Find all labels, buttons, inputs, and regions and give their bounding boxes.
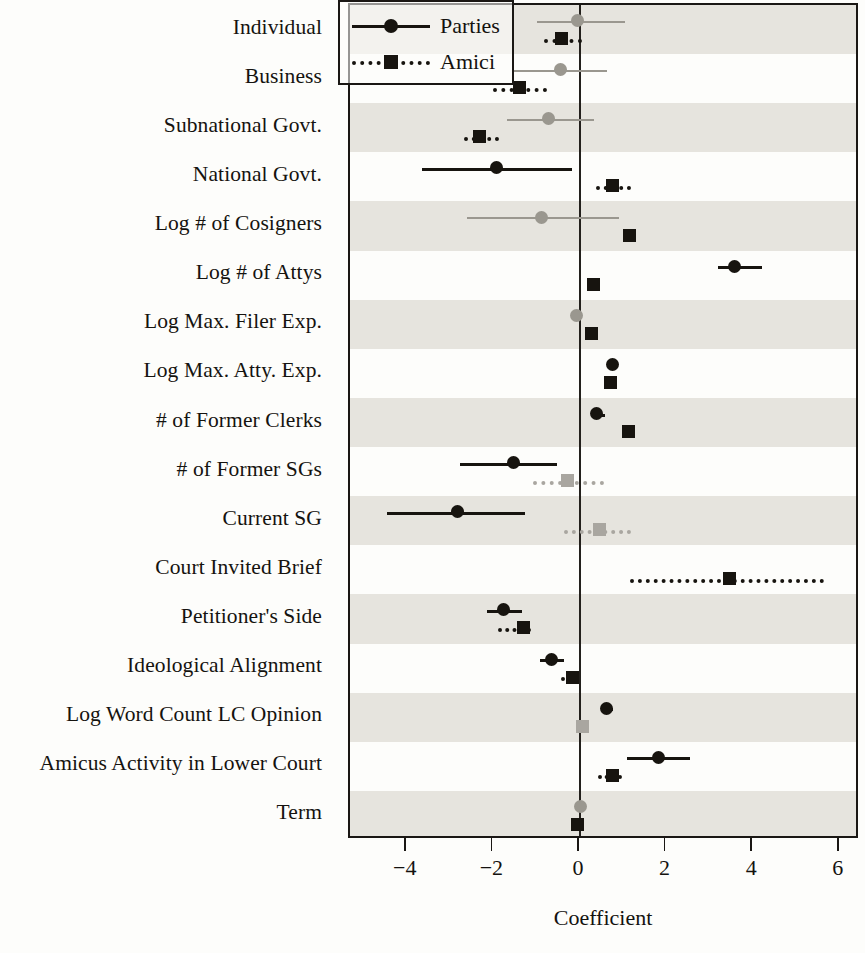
y-axis-label: Petitioner's Side <box>181 606 322 628</box>
row-band <box>350 103 856 152</box>
legend-label-amici: Amici <box>440 49 495 75</box>
point-estimate-parties <box>554 63 567 76</box>
row-band <box>350 398 856 447</box>
point-estimate-parties <box>490 161 503 174</box>
y-axis-label: National Govt. <box>193 164 322 186</box>
y-axis-label: Log # of Cosigners <box>155 213 322 235</box>
point-estimate-amici <box>566 671 579 684</box>
x-axis: −4−20246 <box>348 838 858 888</box>
y-axis-label: Court Invited Brief <box>155 557 322 579</box>
zero-reference-line <box>579 5 581 836</box>
x-axis-tick <box>750 838 752 851</box>
point-estimate-amici <box>555 32 568 45</box>
row-band <box>350 791 856 838</box>
point-estimate-amici <box>571 818 584 831</box>
x-axis-tick <box>664 838 666 851</box>
row-band <box>350 201 856 250</box>
x-axis-tick <box>837 838 839 851</box>
legend-square-marker-icon <box>384 55 398 69</box>
y-axis-label: # of Former Clerks <box>156 410 322 432</box>
point-estimate-parties <box>606 358 619 371</box>
legend-label-parties: Parties <box>440 13 500 39</box>
point-estimate-amici <box>606 769 619 782</box>
point-estimate-amici <box>593 523 606 536</box>
point-estimate-amici <box>622 425 635 438</box>
point-estimate-parties <box>574 800 587 813</box>
y-axis-label: # of Former SGs <box>177 459 322 481</box>
point-estimate-amici <box>606 179 619 192</box>
point-estimate-amici <box>473 130 486 143</box>
x-axis-title: Coefficient <box>348 905 858 931</box>
y-axis-label: Log # of Attys <box>196 262 322 284</box>
point-estimate-parties <box>600 702 613 715</box>
legend-circle-marker-icon <box>384 19 398 33</box>
y-axis-label-column: IndividualBusinessSubnational Govt.Natio… <box>0 3 334 838</box>
point-estimate-parties <box>545 653 558 666</box>
point-estimate-amici <box>723 572 736 585</box>
point-estimate-amici <box>517 621 530 634</box>
y-axis-label: Log Max. Atty. Exp. <box>144 360 322 382</box>
plot-panel <box>348 3 858 838</box>
legend-entry-parties: Parties <box>340 8 512 44</box>
point-estimate-amici <box>576 720 589 733</box>
point-estimate-amici <box>604 376 617 389</box>
y-axis-label: Ideological Alignment <box>127 655 322 677</box>
y-axis-label: Current SG <box>222 508 322 530</box>
y-axis-label: Amicus Activity in Lower Court <box>40 753 322 775</box>
y-axis-label: Term <box>277 802 322 824</box>
point-estimate-amici <box>513 81 526 94</box>
point-estimate-parties <box>728 260 741 273</box>
x-axis-tick-label: 0 <box>573 855 584 881</box>
row-band <box>350 300 856 349</box>
point-estimate-parties <box>535 211 548 224</box>
x-axis-tick-label: 6 <box>832 855 843 881</box>
point-estimate-amici <box>623 229 636 242</box>
y-axis-label: Log Max. Filer Exp. <box>144 311 322 333</box>
point-estimate-amici <box>561 474 574 487</box>
coefficient-plot-figure: IndividualBusinessSubnational Govt.Natio… <box>0 0 865 953</box>
legend-box: Parties Amici <box>338 0 514 85</box>
point-estimate-amici <box>585 327 598 340</box>
y-axis-label: Business <box>245 66 322 88</box>
x-axis-tick <box>491 838 493 851</box>
row-band <box>350 594 856 643</box>
x-axis-tick <box>577 838 579 851</box>
x-axis-tick-label: −4 <box>393 855 416 881</box>
legend-entry-amici: Amici <box>340 44 512 80</box>
y-axis-label: Individual <box>233 17 322 39</box>
x-axis-tick <box>404 838 406 851</box>
x-axis-tick-label: 2 <box>659 855 670 881</box>
row-band <box>350 693 856 742</box>
point-estimate-parties <box>451 505 464 518</box>
point-estimate-parties <box>507 456 520 469</box>
point-estimate-parties <box>652 751 665 764</box>
x-axis-tick-label: −2 <box>480 855 503 881</box>
y-axis-label: Subnational Govt. <box>164 115 322 137</box>
x-axis-tick-label: 4 <box>746 855 757 881</box>
point-estimate-amici <box>587 278 600 291</box>
y-axis-label: Log Word Count LC Opinion <box>66 704 322 726</box>
row-band <box>350 496 856 545</box>
